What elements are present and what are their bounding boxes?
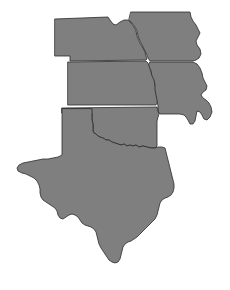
map-container: South Central United States Region Map N…	[0, 0, 230, 290]
state-map: South Central United States Region Map N…	[0, 0, 230, 290]
state-kansas[interactable]: Kansas	[68, 61, 158, 105]
